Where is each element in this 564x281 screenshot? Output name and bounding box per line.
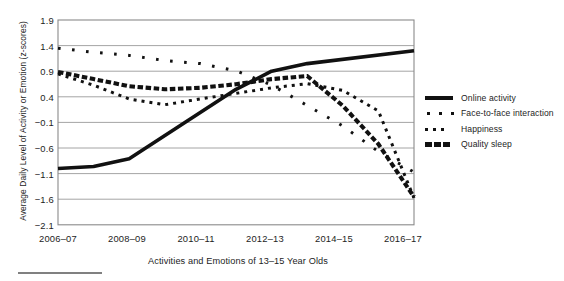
legend-marker-dashes-icon: [424, 138, 454, 150]
legend-label: Happiness: [461, 124, 503, 134]
series-happiness: [58, 74, 414, 198]
legend-item-face-to-face-interaction[interactable]: Face-to-face interaction: [424, 106, 562, 122]
legend-label: Quality sleep: [461, 139, 512, 149]
legend-item-quality-sleep[interactable]: Quality sleep: [424, 137, 562, 153]
gridlines: [58, 46, 414, 200]
legend-marker-solid-line-icon: [424, 92, 454, 104]
legend-marker-dots-icon: [424, 123, 454, 135]
x-axis-title: Activities and Emotions of 13–15 Year Ol…: [58, 256, 418, 266]
legend-item-online-activity[interactable]: Online activity: [424, 90, 562, 106]
legend-label: Online activity: [461, 93, 516, 103]
chart-legend: Online activity Face-to-face interaction…: [424, 90, 562, 152]
series-online-activity: [58, 51, 414, 169]
legend-label: Face-to-face interaction: [461, 108, 554, 118]
legend-item-happiness[interactable]: Happiness: [424, 121, 562, 137]
legend-marker-sparse-dots-icon: [424, 107, 454, 119]
page-edge-artifact: [18, 272, 102, 274]
chart-figure: Average Daily Level of Activity or Emoti…: [0, 0, 564, 281]
series-face-to-face: [58, 48, 414, 172]
